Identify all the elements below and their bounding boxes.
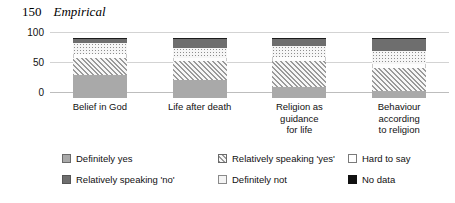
legend-row-1: Definitely yesRelatively speaking 'yes'H… [0,149,455,169]
bar-segment [73,75,127,98]
bar-column [349,26,449,98]
x-axis-labels: Belief in GodLife after deathReligion as… [50,101,449,136]
running-head: 150 Empirical [22,4,106,20]
legend-item[interactable]: Relatively speaking 'no' [62,174,175,185]
stacked-bar[interactable] [272,38,326,98]
legend-swatch-icon [348,175,357,184]
legend-item[interactable]: Definitely not [218,174,287,185]
bar-segment [372,91,426,98]
bar-segment [272,87,326,98]
stacked-bar[interactable] [173,38,227,98]
legend-label: No data [362,174,395,185]
bar-segment [73,43,127,54]
x-axis-label-line: Religion as [250,101,350,113]
legend-item[interactable]: Relatively speaking 'yes' [218,153,335,164]
x-axis-label-line: Behaviour [349,101,449,113]
x-axis-label: Life after death [150,101,250,136]
stacked-bar[interactable] [372,38,426,98]
bar-group [50,26,449,98]
chart-legend: Definitely yesRelatively speaking 'yes'H… [0,149,455,195]
bar-segment [372,39,426,50]
bar-segment [73,58,127,75]
bar-segment [272,39,326,46]
bar-column [50,26,150,98]
y-axis: 100 50 0 [0,26,48,98]
legend-label: Relatively speaking 'yes' [232,153,335,164]
page-folio: 150 [22,4,42,20]
legend-label: Definitely yes [76,153,133,164]
bar-column [250,26,350,98]
chart-plot-area: 100 50 0 [0,26,455,98]
running-head-title: Empirical [54,4,106,20]
x-axis-label-line: Life after death [150,101,250,113]
bar-segment [173,39,227,47]
legend-label: Definitely not [232,174,287,185]
x-axis-label-line: Belief in God [50,101,150,113]
bar-segment [272,46,326,57]
y-tick-50: 50 [33,57,44,68]
bar-segment [372,51,426,64]
legend-label: Relatively speaking 'no' [76,174,175,185]
legend-item[interactable]: Definitely yes [62,153,133,164]
stacked-bar[interactable] [73,38,127,98]
bar-segment [272,61,326,87]
figure-page: 150 Empirical 100 50 0 Belief in GodLife… [0,0,455,203]
legend-item[interactable]: Hard to say [348,153,411,164]
bar-segment [173,61,227,80]
bar-segment [173,48,227,58]
x-axis-label-line: for life [250,124,350,136]
y-tick-0: 0 [38,87,44,98]
x-axis-label: Behaviouraccordingto religion [349,101,449,136]
legend-swatch-icon [62,175,71,184]
x-axis-label-line: guidance [250,113,350,125]
legend-swatch-icon [218,175,227,184]
bar-segment [372,68,426,91]
x-axis-label-line: to religion [349,124,449,136]
legend-swatch-icon [62,154,71,163]
legend-swatch-icon [218,154,227,163]
bar-column [150,26,250,98]
legend-label: Hard to say [362,153,411,164]
bar-segment [173,80,227,98]
legend-item[interactable]: No data [348,174,395,185]
x-axis-label: Religion asguidancefor life [250,101,350,136]
x-axis-label-line: according [349,113,449,125]
legend-row-2: Relatively speaking 'no'Definitely notNo… [0,170,455,190]
y-tick-100: 100 [27,27,44,38]
legend-swatch-icon [348,154,357,163]
x-axis-label: Belief in God [50,101,150,136]
